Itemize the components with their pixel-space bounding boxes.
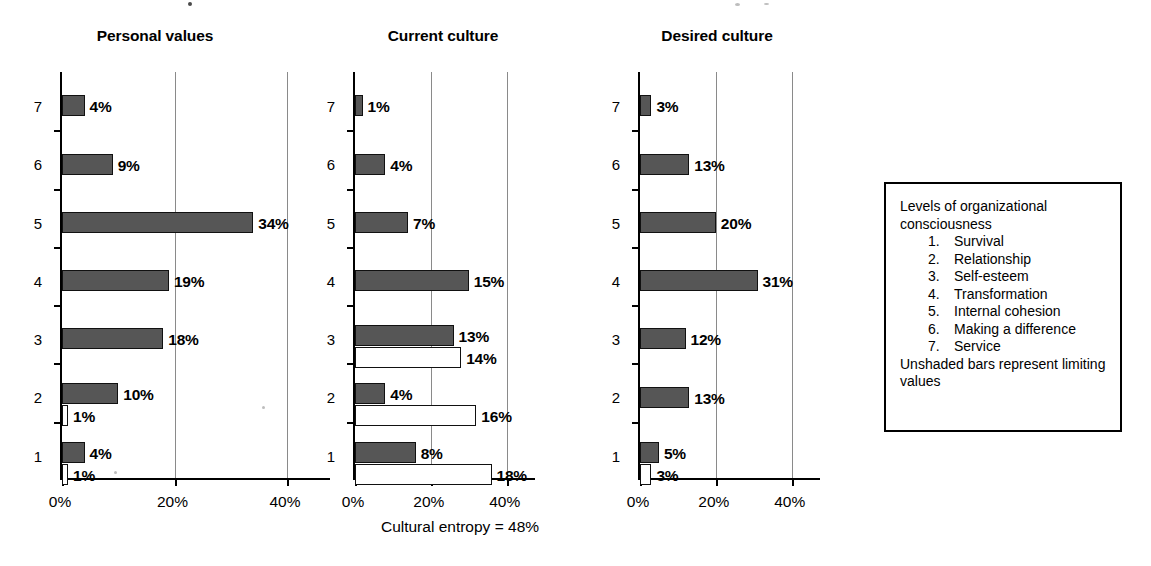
y-axis-tick [632,130,640,132]
y-axis-tick [632,363,640,365]
y-axis-tick [632,305,640,307]
chart-panel-personal-values: Personal values 0%20%40%12345674%1%10%1%… [0,0,330,530]
bar-value-label: 4% [90,446,112,462]
bar-shaded [62,154,113,175]
x-axis-label: 40% [760,494,820,510]
bar-value-label: 4% [390,158,412,174]
y-axis-category-label: 2 [295,390,335,405]
legend-item: 7.Service [900,338,1112,356]
legend-item: 4.Transformation [900,286,1112,304]
bar-shaded [355,212,408,233]
legend-item-label: Survival [954,233,1004,251]
y-axis-category-label: 6 [580,157,620,172]
bar-value-label: 13% [459,329,489,345]
bar-value-label: 5% [664,446,686,462]
y-axis-category-label: 6 [295,157,335,172]
cultural-values-assessment-figure: Personal values 0%20%40%12345674%1%10%1%… [0,0,1151,566]
bar-shaded [640,442,659,463]
y-axis-category-label: 3 [580,332,620,347]
x-axis-tick [287,478,289,486]
legend-item-number: 5. [928,303,954,321]
legend-item: 5.Internal cohesion [900,303,1112,321]
y-axis-category-label: 7 [2,99,42,114]
bar-value-label: 9% [118,158,140,174]
x-axis-label: 20% [684,494,744,510]
legend-item-number: 6. [928,321,954,339]
bar-unshaded [62,405,68,426]
bar-value-label: 1% [73,409,95,425]
y-axis-tick [347,363,355,365]
y-axis-tick [54,247,62,249]
y-axis-tick [54,130,62,132]
bar-value-label: 13% [694,158,724,174]
legend-item: 2.Relationship [900,251,1112,269]
bar-value-label: 15% [474,274,504,290]
chart-panel-desired-culture: Desired culture 0%20%40%12345675%3%13%12… [600,0,890,530]
x-axis-label: 40% [255,494,315,510]
bar-unshaded [62,464,68,485]
bar-unshaded [355,464,492,485]
legend-item: 1.Survival [900,233,1112,251]
legend-levels-list: 1.Survival2.Relationship3.Self-esteem4.T… [900,233,1112,356]
bar-value-label: 3% [656,468,678,484]
x-axis-label: 0% [30,494,90,510]
bar-value-label: 18% [497,468,527,484]
legend-heading: Levels of organizational consciousness [900,198,1112,233]
bar-shaded [62,95,85,116]
bar-unshaded [640,464,651,485]
bar-value-label: 1% [368,99,390,115]
y-axis-category-label: 3 [295,332,335,347]
bar-value-label: 12% [691,332,721,348]
bar-shaded [640,328,686,349]
legend-item-label: Making a difference [954,321,1076,339]
legend-item-label: Self-esteem [954,268,1029,286]
chart-title-current-culture: Current culture [308,27,578,45]
bar-shaded [640,270,758,291]
y-axis-tick [347,247,355,249]
x-axis-tick [716,478,718,486]
x-axis-label: 20% [399,494,459,510]
y-axis-category-label: 5 [295,216,335,231]
y-axis-tick [347,305,355,307]
bar-value-label: 16% [481,409,511,425]
y-axis-category-label: 4 [295,274,335,289]
bar-value-label: 7% [413,216,435,232]
bar-shaded [355,325,454,346]
bar-value-label: 4% [390,387,412,403]
bar-shaded [62,270,169,291]
gridline [287,72,288,480]
y-axis-category-label: 1 [2,449,42,464]
legend-item-label: Transformation [954,286,1048,304]
y-axis-tick [347,130,355,132]
chart-caption-cultural-entropy: Cultural entropy = 48% [300,518,620,536]
y-axis-category-label: 4 [2,274,42,289]
x-axis-label: 0% [323,494,383,510]
bar-shaded [640,95,651,116]
bar-shaded [62,328,163,349]
bar-value-label: 34% [258,216,288,232]
legend-item-number: 7. [928,338,954,356]
y-axis-category-label: 6 [2,157,42,172]
bar-value-label: 13% [694,391,724,407]
bar-value-label: 14% [466,351,496,367]
chart-panel-current-culture: Current culture 0%20%40%12345678%18%4%16… [330,0,600,530]
bar-shaded [355,154,385,175]
y-axis-tick [632,422,640,424]
bar-shaded [355,270,469,291]
bar-value-label: 8% [421,446,443,462]
bar-value-label: 1% [73,468,95,484]
bar-value-label: 18% [168,332,198,348]
legend-item-label: Service [954,338,1001,356]
chart-title-personal-values: Personal values [0,27,320,45]
y-axis-category-label: 2 [2,390,42,405]
legend-item-number: 1. [928,233,954,251]
bar-shaded [355,383,385,404]
y-axis-tick [54,422,62,424]
legend-footnote: Unshaded bars represent limiting values [900,356,1112,391]
bar-shaded [640,154,689,175]
y-axis-category-label: 3 [2,332,42,347]
x-axis-tick [175,478,177,486]
legend-item-label: Relationship [954,251,1031,269]
bar-value-label: 20% [721,216,751,232]
bar-shaded [355,442,416,463]
